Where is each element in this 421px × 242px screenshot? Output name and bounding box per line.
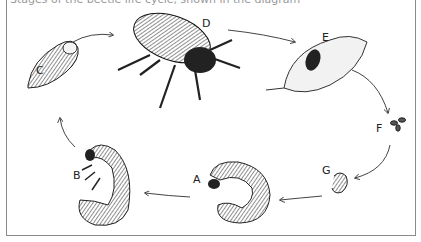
stage-label-g: G	[322, 164, 331, 177]
leaf-with-beetle-illustration	[266, 36, 367, 91]
stage-label-b: B	[73, 169, 81, 182]
stage-label-c: C	[36, 64, 44, 77]
stage-label-d: D	[202, 17, 210, 30]
adult-beetle-illustration	[118, 4, 240, 108]
young-grub-illustration	[332, 173, 347, 193]
mature-grub-illustration	[79, 145, 130, 225]
large-grub-illustration	[208, 162, 270, 223]
stage-label-f: F	[376, 122, 382, 135]
stage-label-a: A	[193, 173, 201, 186]
eggs-illustration	[391, 118, 406, 131]
stage-label-e: E	[322, 31, 329, 44]
life-cycle-illustration	[0, 0, 421, 242]
